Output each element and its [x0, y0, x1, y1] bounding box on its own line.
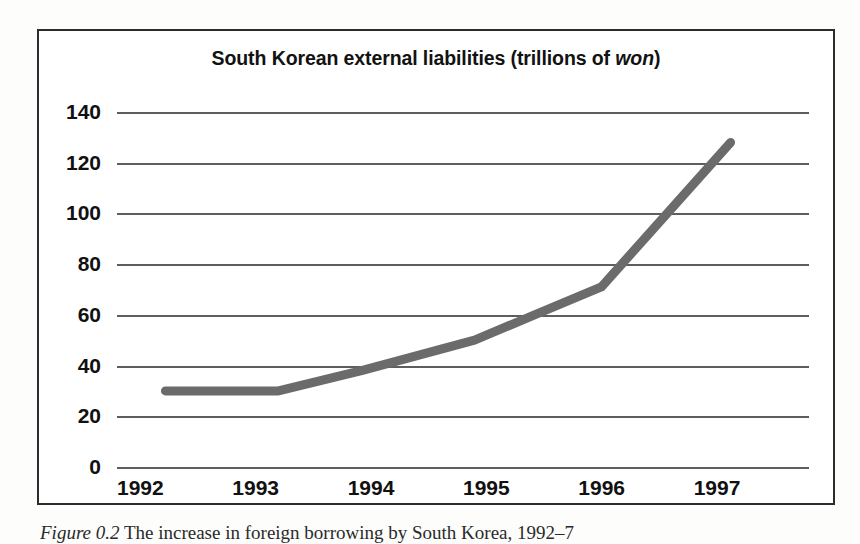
gridline [117, 315, 809, 317]
y-axis-tick-label: 140 [66, 100, 101, 124]
chart-title-suffix: ) [654, 47, 660, 69]
x-axis-tick-label: 1997 [694, 476, 741, 500]
y-axis-tick-label: 120 [66, 151, 101, 175]
figure-caption-label: Figure 0.2 [40, 522, 120, 543]
chart-title-prefix: South Korean external liabilities (trill… [212, 47, 616, 69]
x-axis-tick-label: 1996 [578, 476, 625, 500]
data-series-layer [117, 112, 809, 467]
figure-caption: Figure 0.2 The increase in foreign borro… [40, 521, 830, 544]
liabilities-line-series [165, 142, 730, 391]
gridline [117, 112, 809, 114]
chart-title: South Korean external liabilities (trill… [39, 47, 833, 70]
x-axis-baseline [117, 467, 809, 469]
figure-frame: South Korean external liabilities (trill… [37, 29, 835, 505]
x-axis-tick-label: 1995 [463, 476, 510, 500]
x-axis-tick-label: 1992 [117, 476, 164, 500]
x-axis-tick-label: 1993 [232, 476, 279, 500]
gridline [117, 366, 809, 368]
figure-caption-body: The increase in foreign borrowing by Sou… [120, 522, 575, 543]
y-axis-tick-label: 60 [78, 303, 101, 327]
y-axis-tick-label: 80 [78, 252, 101, 276]
y-axis-tick-label: 0 [89, 455, 101, 479]
gridline [117, 416, 809, 418]
plot-area: 020406080100120140 199219931994199519961… [117, 112, 809, 467]
chart-title-italic-word: won [615, 47, 654, 69]
y-axis-tick-label: 20 [78, 404, 101, 428]
scanned-page: South Korean external liabilities (trill… [0, 0, 860, 544]
gridline [117, 213, 809, 215]
x-axis-tick-label: 1994 [348, 476, 395, 500]
y-axis-tick-label: 40 [78, 354, 101, 378]
y-axis-tick-label: 100 [66, 201, 101, 225]
gridline [117, 264, 809, 266]
gridline [117, 163, 809, 165]
